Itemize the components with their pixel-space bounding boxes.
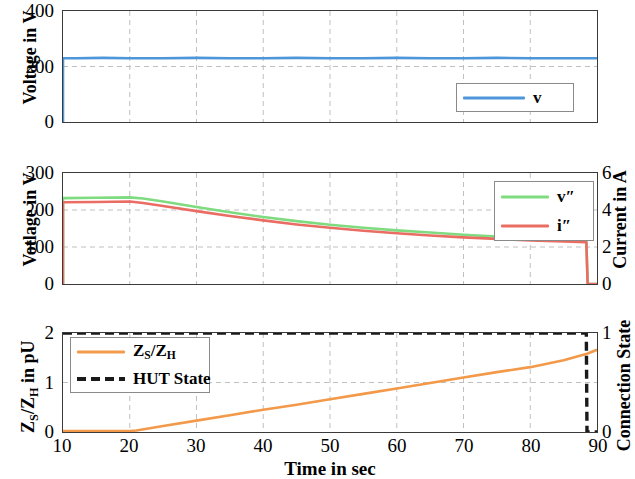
legend-item[interactable]: HUT State — [71, 365, 209, 392]
xtick-label: 40 — [254, 436, 273, 455]
ytick-label: 0 — [45, 112, 55, 131]
legend-label: HUT State — [133, 370, 211, 387]
ytick-label: 1 — [602, 323, 612, 342]
xtick-label: 50 — [321, 436, 340, 455]
ylabel-middle-right: Current in A — [610, 140, 631, 300]
xtick-label: 20 — [120, 436, 139, 455]
legend-item[interactable]: ZS/ZH — [71, 338, 209, 365]
line-swatch-icon — [77, 347, 125, 357]
legend-label: ZS/ZH — [133, 342, 176, 362]
line-swatch-icon — [501, 221, 549, 231]
ylabel-middle: Votlage in V — [20, 140, 41, 300]
legend-middle[interactable]: v″i″ — [494, 181, 594, 241]
line-swatch-icon — [463, 93, 525, 103]
dashed-line-swatch-icon — [77, 374, 125, 384]
legend-bottom[interactable]: ZS/ZHHUT State — [70, 337, 210, 393]
ylabel-bottom-text: ZS/ZH in pU — [18, 341, 38, 433]
ylabel-bottom: ZS/ZH in pU — [18, 307, 41, 467]
ytick-label: 2 — [45, 323, 55, 342]
ylabel-top: Voltage in V — [20, 0, 41, 138]
xtick-label: 10 — [53, 436, 72, 455]
legend-item[interactable]: v — [457, 84, 573, 111]
legend-top[interactable]: v — [456, 83, 574, 112]
ytick-label: 0 — [45, 274, 55, 293]
legend-label: v — [533, 89, 542, 106]
xtick-label: 30 — [187, 436, 206, 455]
legend-item[interactable]: v″ — [495, 182, 593, 211]
legend-label: i″ — [557, 217, 571, 234]
xtick-labels: 102030405060708090 — [62, 436, 598, 458]
xlabel: Time in sec — [62, 458, 598, 479]
xtick-label: 60 — [388, 436, 407, 455]
legend-item[interactable]: i″ — [495, 211, 593, 240]
xtick-label: 70 — [455, 436, 474, 455]
ytick-label: 1 — [45, 372, 55, 391]
legend-label: v″ — [557, 188, 575, 205]
xtick-label: 90 — [589, 436, 608, 455]
ylabel-bottom-right: Connection State — [614, 296, 635, 476]
xtick-label: 80 — [522, 436, 541, 455]
line-swatch-icon — [501, 192, 549, 202]
